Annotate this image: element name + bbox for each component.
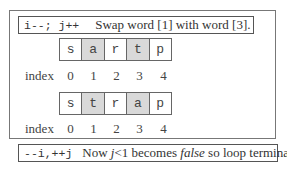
array-cell: r — [104, 92, 127, 115]
index-number: 0 — [59, 121, 82, 137]
code-snippet: --i,++j — [24, 147, 72, 160]
array-cell: r — [104, 38, 127, 61]
index-number: 1 — [82, 121, 105, 137]
array-cell-highlighted: t — [81, 92, 104, 115]
step-label-top: i--; j++ Swap word [1] with word [3]. — [18, 16, 254, 34]
index-number: 4 — [152, 121, 175, 137]
desc-text: <1 becomes — [114, 145, 180, 160]
step-description: Now j<1 becomes false so loop terminates… — [82, 145, 287, 161]
array-cell-highlighted: a — [81, 38, 104, 61]
index-number: 0 — [59, 68, 82, 84]
index-label: index — [25, 121, 54, 137]
array-row-before: s a r t p — [59, 38, 172, 61]
array-cell: p — [149, 38, 172, 61]
index-number: 2 — [105, 68, 128, 84]
array-cell: p — [149, 92, 172, 115]
array-cell-highlighted: a — [126, 92, 149, 115]
index-number: 4 — [152, 68, 175, 84]
index-number: 2 — [105, 121, 128, 137]
index-label: index — [25, 68, 54, 84]
array-cell: s — [59, 92, 82, 115]
code-snippet: i--; j++ — [24, 19, 79, 32]
index-row-before: index 0 1 2 3 4 — [0, 68, 287, 84]
array-row-after: s t r a p — [59, 92, 172, 115]
index-number: 3 — [128, 68, 151, 84]
step-label-bottom: --i,++j Now j<1 becomes false so loop te… — [18, 144, 278, 162]
array-cell: s — [59, 38, 82, 61]
step-description: Swap word [1] with word [3]. — [95, 17, 250, 33]
index-number: 3 — [128, 121, 151, 137]
desc-text: so loop terminates. — [205, 145, 287, 160]
index-number: 1 — [82, 68, 105, 84]
desc-text: Now — [82, 145, 111, 160]
array-cell-highlighted: t — [126, 38, 149, 61]
desc-keyword: false — [180, 145, 205, 160]
index-row-after: index 0 1 2 3 4 — [0, 121, 287, 137]
